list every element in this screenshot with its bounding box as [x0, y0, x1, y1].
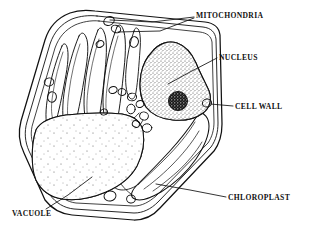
label-chloroplast: CHLOROPLAST: [228, 194, 290, 202]
plant-cell-diagram-page: MITOCHONDRIA NUCLEUS CELL WALL CHLOROPLA…: [0, 0, 311, 245]
leader-chloroplast: [156, 184, 226, 197]
label-cell-wall: CELL WALL: [235, 103, 283, 111]
label-vacuole: VACUOLE: [12, 210, 51, 218]
label-nucleus: NUCLEUS: [219, 54, 258, 62]
label-mitochondria: MITOCHONDRIA: [196, 12, 263, 20]
vacuole-stipple: [28, 108, 152, 206]
nucleolus-shape: [168, 91, 187, 110]
